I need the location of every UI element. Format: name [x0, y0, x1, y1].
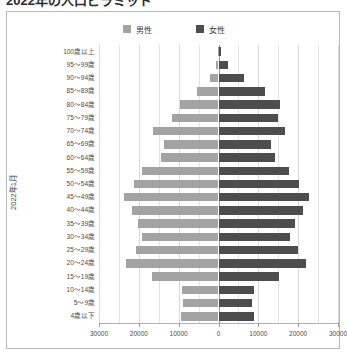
x-axis-tick-label: 20000: [130, 329, 148, 338]
bar-row[interactable]: [99, 153, 338, 162]
bar-female[interactable]: [219, 74, 244, 83]
x-axis-tick-label: 10000: [170, 329, 188, 338]
x-axis-tick-label: 10000: [249, 329, 267, 338]
bar-row[interactable]: [99, 246, 338, 255]
bar-female[interactable]: [219, 47, 222, 56]
plot-area: [99, 45, 338, 323]
bar-row[interactable]: [99, 47, 338, 56]
bar-male[interactable]: [172, 114, 219, 123]
bar-row[interactable]: [99, 206, 338, 215]
bar-row[interactable]: [99, 100, 338, 109]
y-axis-tick-label: 25〜29歳: [67, 246, 95, 254]
bar-female[interactable]: [219, 100, 280, 109]
bar-female[interactable]: [219, 153, 275, 162]
y-axis-tick-label: 70〜74歳: [67, 127, 95, 135]
bar-row[interactable]: [99, 114, 338, 123]
bar-female[interactable]: [219, 299, 253, 308]
bar-row[interactable]: [99, 127, 338, 136]
bar-row[interactable]: [99, 259, 338, 268]
y-axis-tick-label: 5〜9歳: [74, 299, 95, 307]
bar-male[interactable]: [138, 219, 218, 228]
bar-male[interactable]: [161, 153, 219, 162]
bar-male[interactable]: [136, 246, 219, 255]
bar-male[interactable]: [153, 127, 218, 136]
bar-female[interactable]: [219, 312, 254, 321]
y-axis-tick-label: 60〜64歳: [67, 154, 95, 162]
x-axis-tick: [258, 323, 259, 327]
y-axis-title-text: 2022年1月: [7, 175, 18, 210]
y-axis-tick-label: 90〜94歳: [67, 74, 95, 82]
bar-female[interactable]: [219, 127, 286, 136]
bar-row[interactable]: [99, 312, 338, 321]
bar-female[interactable]: [219, 233, 290, 242]
bar-row[interactable]: [99, 286, 338, 295]
bar-row[interactable]: [99, 219, 338, 228]
bar-male[interactable]: [124, 193, 218, 202]
bar-female[interactable]: [219, 140, 272, 149]
bar-female[interactable]: [219, 246, 298, 255]
y-axis-tick-label: 80〜84歳: [67, 101, 95, 109]
bar-female[interactable]: [219, 259, 306, 268]
bar-male[interactable]: [152, 272, 218, 281]
bar-row[interactable]: [99, 299, 338, 308]
bar-female[interactable]: [219, 180, 299, 189]
x-axis-tick: [179, 323, 180, 327]
y-axis-title: 2022年1月: [5, 132, 19, 252]
y-axis-tick-label: 55〜59歳: [67, 167, 95, 175]
bar-row[interactable]: [99, 74, 338, 83]
bar-female[interactable]: [219, 114, 278, 123]
y-axis-tick-label: 15〜19歳: [67, 273, 95, 281]
bar-male[interactable]: [197, 87, 219, 96]
chart-frame: 男性 女性 2022年1月 100歳以上95〜99歳90〜94歳85〜89歳80…: [6, 11, 340, 349]
legend-swatch-female: [196, 25, 204, 33]
x-axis-tick: [139, 323, 140, 327]
bar-male[interactable]: [142, 233, 219, 242]
bar-row[interactable]: [99, 233, 338, 242]
bar-female[interactable]: [219, 87, 265, 96]
legend-item-male[interactable]: 男性: [123, 24, 152, 35]
bar-row[interactable]: [99, 180, 338, 189]
y-axis-tick-label: 45〜49歳: [67, 193, 95, 201]
x-axis-tick: [219, 323, 220, 327]
x-axis-tick-label: 30000: [329, 329, 347, 338]
x-axis-tick: [338, 323, 339, 327]
gridline: [338, 45, 339, 323]
bar-female[interactable]: [219, 167, 290, 176]
bar-male[interactable]: [142, 167, 218, 176]
bar-male[interactable]: [134, 180, 219, 189]
bar-row[interactable]: [99, 87, 338, 96]
y-axis-tick-label: 10〜14歳: [67, 286, 95, 294]
y-axis-tick-label: 35〜39歳: [67, 220, 95, 228]
bar-female[interactable]: [219, 286, 254, 295]
bar-female[interactable]: [219, 206, 303, 215]
y-axis-tick-label: 4歳以下: [70, 312, 95, 320]
bar-row[interactable]: [99, 61, 338, 70]
chart-legend: 男性 女性: [7, 22, 341, 36]
x-axis-tick-label: 0: [217, 329, 221, 338]
x-axis-tick: [298, 323, 299, 327]
y-axis-tick-label: 85〜89歳: [67, 87, 95, 95]
bar-female[interactable]: [219, 61, 229, 70]
bar-male[interactable]: [210, 74, 218, 83]
bar-female[interactable]: [219, 193, 309, 202]
legend-item-female[interactable]: 女性: [196, 24, 225, 35]
bar-male[interactable]: [126, 259, 218, 268]
bar-female[interactable]: [219, 219, 295, 228]
bar-row[interactable]: [99, 193, 338, 202]
bar-male[interactable]: [182, 286, 219, 295]
y-axis-tick-labels: 100歳以上95〜99歳90〜94歳85〜89歳80〜84歳75〜79歳70〜7…: [25, 45, 95, 323]
y-axis-tick-label: 75〜79歳: [67, 114, 95, 122]
bar-male[interactable]: [180, 100, 218, 109]
y-axis-tick-label: 95〜99歳: [67, 61, 95, 69]
bar-female[interactable]: [219, 272, 280, 281]
bar-male[interactable]: [132, 206, 219, 215]
bar-row[interactable]: [99, 272, 338, 281]
y-axis-tick-label: 30〜34歳: [67, 233, 95, 241]
bar-male[interactable]: [183, 299, 219, 308]
bar-row[interactable]: [99, 167, 338, 176]
bar-male[interactable]: [181, 312, 218, 321]
x-axis-tick: [99, 323, 100, 327]
bar-row[interactable]: [99, 140, 338, 149]
bar-male[interactable]: [164, 140, 219, 149]
